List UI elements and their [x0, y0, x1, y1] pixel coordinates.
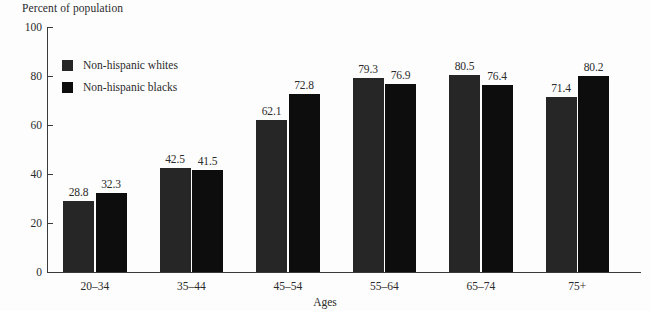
bar — [256, 120, 287, 272]
x-axis-category-label: 45–54 — [244, 280, 332, 292]
y-axis-title: Percent of population — [22, 2, 123, 14]
y-axis-tick — [47, 272, 53, 273]
x-axis-category-label: 55–64 — [341, 280, 429, 292]
y-axis-tick-label: 20 — [0, 217, 42, 229]
bar — [289, 94, 320, 272]
y-axis-tick — [47, 76, 53, 77]
legend-label: Non-hispanic whites — [83, 59, 178, 71]
legend-label: Non-hispanic blacks — [83, 81, 177, 93]
bar — [63, 201, 94, 272]
legend-item: Non-hispanic whites — [62, 54, 178, 76]
bar-chart: Percent of population 020406080100 28.83… — [0, 0, 650, 311]
bar — [578, 76, 609, 272]
bar — [96, 193, 127, 272]
bar-value-label: 62.1 — [252, 105, 291, 117]
y-axis-line — [47, 27, 48, 273]
legend: Non-hispanic whites Non-hispanic blacks — [62, 54, 178, 98]
x-axis-category-label: 20–34 — [51, 280, 139, 292]
x-axis-category-label: 75+ — [534, 280, 622, 292]
bar-value-label: 80.2 — [574, 61, 613, 73]
legend-swatch-icon — [62, 60, 73, 71]
bar-value-label: 32.3 — [92, 178, 131, 190]
y-axis-tick — [47, 125, 53, 126]
bar — [482, 85, 513, 272]
x-axis-category-label: 65–74 — [437, 280, 525, 292]
bar — [353, 78, 384, 272]
x-axis-line — [47, 272, 641, 273]
x-axis-title: Ages — [0, 296, 650, 308]
bar-value-label: 76.9 — [381, 69, 420, 81]
bar — [449, 75, 480, 272]
bar — [160, 168, 191, 272]
x-axis-category-label: 35–44 — [148, 280, 236, 292]
bar-value-label: 71.4 — [542, 82, 581, 94]
y-axis-tick-label: 80 — [0, 70, 42, 82]
bar — [385, 84, 416, 272]
y-axis-tick — [47, 223, 53, 224]
y-axis-tick-label: 60 — [0, 119, 42, 131]
legend-swatch-icon — [62, 82, 73, 93]
bar — [192, 170, 223, 272]
y-axis-tick — [47, 27, 53, 28]
bar-value-label: 76.4 — [478, 70, 517, 82]
y-axis-tick-label: 100 — [0, 21, 42, 33]
bar-value-label: 72.8 — [285, 79, 324, 91]
y-axis-tick — [47, 174, 53, 175]
bar-value-label: 41.5 — [188, 155, 227, 167]
y-axis-tick-label: 40 — [0, 168, 42, 180]
y-axis-tick-label: 0 — [0, 266, 42, 278]
legend-item: Non-hispanic blacks — [62, 76, 178, 98]
bar — [546, 97, 577, 272]
